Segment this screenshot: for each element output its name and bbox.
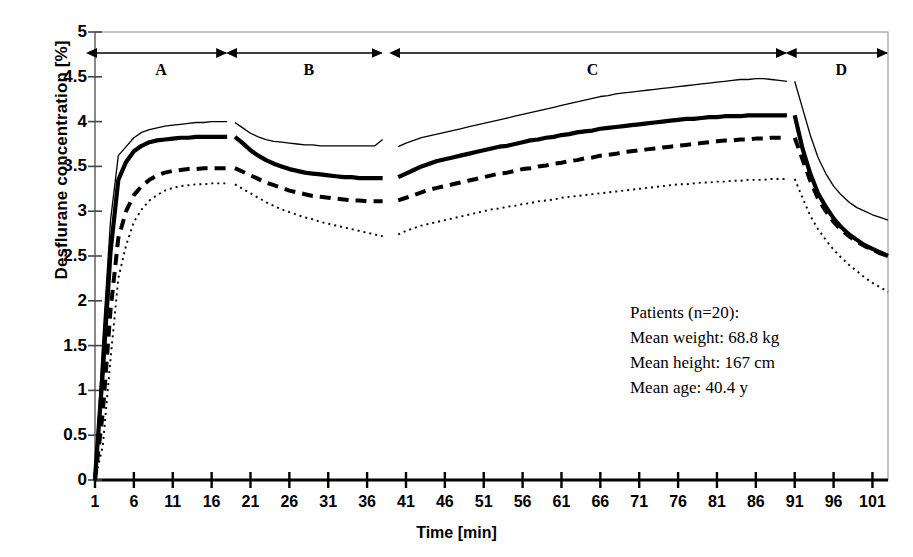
x-tick-label: 96 <box>814 494 854 510</box>
x-tick-label: 86 <box>736 494 776 510</box>
plot-frame <box>95 32 888 480</box>
y-tick-label: 4.5 <box>43 68 87 85</box>
x-tick-label: 51 <box>464 494 504 510</box>
phase-label-d: D <box>821 61 861 79</box>
y-tick-label: 3 <box>43 202 87 219</box>
x-tick-label: 21 <box>230 494 270 510</box>
x-tick-label: 61 <box>541 494 581 510</box>
series-segment <box>235 184 383 236</box>
series-segment <box>95 122 227 476</box>
x-tick-label: 101 <box>852 494 892 510</box>
annotation-line-1: Patients (n=20): <box>630 300 779 325</box>
y-tick-label: 5 <box>43 23 87 40</box>
x-tick-label: 1 <box>75 494 115 510</box>
x-tick-label: 11 <box>153 494 193 510</box>
annotation-line-2: Mean weight: 68.8 kg <box>630 325 779 350</box>
x-tick-label: 31 <box>308 494 348 510</box>
x-tick-label: 66 <box>580 494 620 510</box>
y-tick-label: 3.5 <box>43 157 87 174</box>
x-tick-label: 81 <box>697 494 737 510</box>
chart-figure: Desflurane concentration [%] Time [min] … <box>0 0 913 557</box>
y-tick-label: 0 <box>43 471 87 488</box>
phase-label-b: B <box>289 61 329 79</box>
series-segment <box>235 123 383 146</box>
series-segment <box>795 115 888 256</box>
annotation-line-3: Mean height: 167 cm <box>630 350 779 375</box>
phase-label-a: A <box>141 61 181 79</box>
x-tick-label: 36 <box>347 494 387 510</box>
y-tick-label: 0.5 <box>43 426 87 443</box>
plot-canvas <box>0 0 913 557</box>
series-segment <box>795 81 888 220</box>
x-tick-label: 41 <box>386 494 426 510</box>
y-tick-label: 4 <box>43 113 87 130</box>
series-segment <box>398 179 787 235</box>
x-tick-label: 56 <box>503 494 543 510</box>
series-segment <box>398 79 787 147</box>
series-segment <box>235 137 383 178</box>
x-tick-label: 71 <box>619 494 659 510</box>
y-tick-label: 1 <box>43 381 87 398</box>
x-tick-label: 26 <box>269 494 309 510</box>
x-tick-label: 6 <box>114 494 154 510</box>
y-tick-label: 2.5 <box>43 247 87 264</box>
series-segment <box>795 138 888 256</box>
annotation-line-4: Mean age: 40.4 y <box>630 375 779 400</box>
x-tick-label: 76 <box>658 494 698 510</box>
x-tick-label: 46 <box>425 494 465 510</box>
y-tick-label: 2 <box>43 292 87 309</box>
x-tick-label: 16 <box>192 494 232 510</box>
x-tick-label: 91 <box>775 494 815 510</box>
series-segment <box>398 138 787 201</box>
series-mean-thick-solid <box>95 115 888 478</box>
y-tick-label: 1.5 <box>43 337 87 354</box>
phase-label-c: C <box>573 61 613 79</box>
annotation-box: Patients (n=20): Mean weight: 68.8 kg Me… <box>630 300 779 400</box>
series-segment <box>398 115 787 177</box>
